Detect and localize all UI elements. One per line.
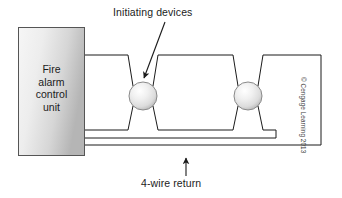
panel-line-3: control xyxy=(19,88,84,101)
fire-alarm-control-unit-label: Fire alarm control unit xyxy=(19,63,84,113)
fire-alarm-circuit-diagram: Fire alarm control unit Initiating devic… xyxy=(0,0,342,198)
panel-line-4: unit xyxy=(19,101,84,114)
panel-line-1: Fire xyxy=(19,63,84,76)
initiating-devices-label: Initiating devices xyxy=(113,6,192,18)
wiring-group xyxy=(84,55,321,145)
initiating-device-2-body xyxy=(234,82,262,110)
loop-outgoing-conductor xyxy=(84,55,321,86)
initiating-devices-leader-arrow xyxy=(144,22,165,78)
initiating-device-1-body xyxy=(129,82,157,110)
four-wire-return-upper xyxy=(84,130,276,138)
panel-line-2: alarm xyxy=(19,76,84,89)
copyright-notice: © Cengage Learning 2013 xyxy=(295,77,307,157)
four-wire-return-label: 4-wire return xyxy=(141,177,201,189)
